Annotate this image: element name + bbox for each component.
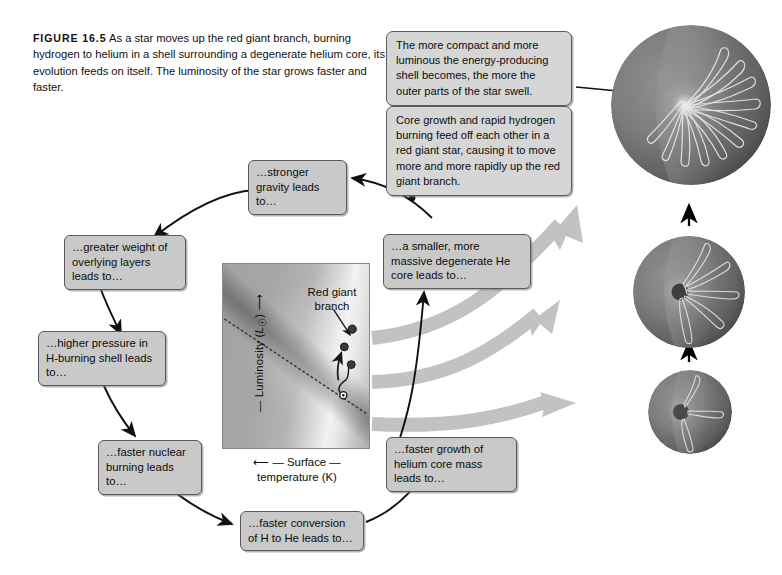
red-giant-branch-label: Red giant branch	[296, 286, 368, 313]
track-marker-1	[347, 361, 355, 369]
dotted-reference-line	[225, 319, 367, 414]
step-higher-pressure: …higher pressure in H-burning shell lead…	[38, 331, 166, 386]
step-degenerate-he-core: …a smaller, more massive degenerate He c…	[383, 234, 531, 289]
step-faster-nuclear-burning: …faster nuclear burning leads to…	[98, 440, 202, 495]
star-large	[611, 25, 771, 185]
step-faster-nuclear-burning-label: …faster nuclear burning leads to…	[106, 446, 186, 487]
figure-caption: FIGURE 16.5 As a star moves up the red g…	[33, 30, 388, 96]
step-faster-helium-growth-label: …faster growth of helium core mass leads…	[394, 443, 483, 484]
step-faster-helium-growth: …faster growth of helium core mass leads…	[386, 437, 517, 492]
star-large-streamers	[611, 25, 771, 185]
track-start-center-dot	[342, 394, 344, 396]
step-higher-pressure-label: …higher pressure in H-burning shell lead…	[46, 337, 152, 378]
step-stronger-gravity: …stronger gravity leads to…	[248, 160, 347, 215]
figure-16-5: FIGURE 16.5 As a star moves up the red g…	[0, 0, 782, 575]
cycle-arrow-hegrowth-to-degenerate	[400, 292, 424, 438]
evolutionary-track	[339, 365, 349, 396]
callout-feedback-text: Core growth and rapid hydrogen burning f…	[396, 114, 560, 187]
step-faster-conversion-label: …faster conversion of H to He leads to…	[248, 517, 353, 544]
step-faster-conversion: …faster conversion of H to He leads to…	[240, 511, 364, 551]
callout-swell-text: The more compact and more luminous the e…	[396, 39, 548, 97]
figure-number: FIGURE 16.5	[33, 32, 106, 44]
y-axis-label: — Luminosity (L☉) ⟶	[252, 268, 268, 438]
thick-arrow-to-medium-star	[372, 300, 560, 382]
track-direction-arrow	[338, 353, 342, 381]
star-small	[648, 370, 732, 454]
track-marker-2	[340, 343, 348, 351]
step-greater-weight-label: …greater weight of overlying layers lead…	[72, 241, 167, 282]
star-small-streamers	[648, 370, 732, 454]
x-axis-label: ⟵ — Surface — temperature (K)	[216, 455, 378, 485]
step-greater-weight: …greater weight of overlying layers lead…	[64, 235, 186, 290]
cycle-arrow-gravity-to-weight	[154, 190, 255, 237]
cycle-arrow-pressure-to-nuclear	[104, 386, 135, 436]
step-degenerate-he-core-label: …a smaller, more massive degenerate He c…	[391, 240, 510, 281]
star-medium	[633, 236, 745, 348]
step-stronger-gravity-label: …stronger gravity leads to…	[256, 166, 319, 207]
callout-swell-box: The more compact and more luminous the e…	[386, 31, 572, 106]
red-giant-branch-leader	[333, 309, 350, 335]
hr-diagram: Red giant branch	[222, 263, 370, 449]
thick-arrow-to-small-star	[372, 392, 576, 425]
callout-feedback-box: Core growth and rapid hydrogen burning f…	[386, 106, 572, 196]
track-marker-3	[348, 325, 356, 333]
star-small-core	[673, 404, 689, 420]
star-medium-streamers	[633, 236, 745, 348]
